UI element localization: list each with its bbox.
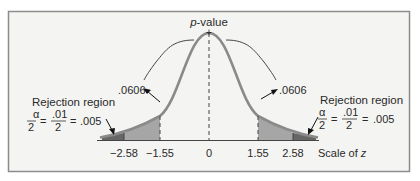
right-tail-area-label: .0606 xyxy=(279,84,307,96)
left-equals-1: = xyxy=(40,115,46,127)
right-alpha: α xyxy=(319,106,326,118)
right-result: .005 xyxy=(373,113,394,125)
left-numerator: .01 xyxy=(52,108,67,120)
tick-label-neg-2-58: −2.58 xyxy=(110,147,138,159)
tick-label-0: 0 xyxy=(206,147,212,159)
left-denominator: 2 xyxy=(55,121,61,133)
right-alpha-denominator: 2 xyxy=(319,119,325,131)
left-tail-area-label: .0606 xyxy=(118,84,146,96)
left-result: .005 xyxy=(80,115,101,127)
right-equals-2: = xyxy=(362,113,368,125)
right-rejection-label: Rejection region xyxy=(320,94,403,106)
tick-label-2-58: 2.58 xyxy=(282,147,303,159)
tick-label-neg-1-55: −1.55 xyxy=(146,147,174,159)
tick-label-1-55: 1.55 xyxy=(247,147,268,159)
right-equals-1: = xyxy=(331,113,337,125)
normal-distribution-figure: p-value + .0606 .0606 Rejection region α… xyxy=(0,0,420,181)
left-alpha-denominator: 2 xyxy=(28,121,34,133)
right-denominator: 2 xyxy=(346,119,352,131)
p-value-plus: + xyxy=(206,27,212,38)
left-rejection-label: Rejection region xyxy=(32,96,115,108)
left-equals-2: = xyxy=(70,115,76,127)
right-numerator: .01 xyxy=(343,106,358,118)
left-alpha: α xyxy=(33,108,40,120)
x-axis-label: Scale of z xyxy=(318,147,367,159)
